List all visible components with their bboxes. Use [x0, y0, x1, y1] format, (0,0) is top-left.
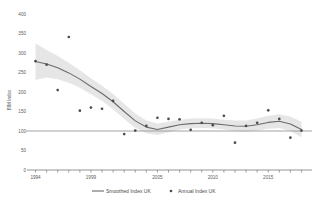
annual-index-point: [145, 125, 148, 128]
annual-index-point: [300, 129, 303, 132]
annual-index-point: [67, 36, 70, 39]
x-tick-label: 1994: [30, 175, 41, 180]
x-tick-label: 1999: [86, 175, 97, 180]
y-tick-label-zero: 0: [23, 168, 26, 173]
annual-index-point: [34, 60, 37, 63]
annual-index-point: [123, 133, 126, 136]
annual-index-point: [79, 109, 82, 112]
annual-index-point: [56, 89, 59, 92]
legend-label-smoothed: Smoothed Index UK: [106, 188, 151, 194]
annual-index-point: [112, 100, 115, 103]
annual-index-point: [167, 118, 170, 121]
annual-index-point: [200, 121, 203, 124]
y-tick-label: 250: [18, 70, 26, 75]
y-tick-label: 200: [18, 90, 26, 95]
y-axis-title: BIM Index: [7, 89, 12, 110]
annual-index-point: [223, 114, 226, 117]
annual-index-point: [156, 116, 159, 119]
chart-container: 40035030025020015010050 BIM Index 199419…: [0, 0, 314, 204]
annual-index-point: [211, 124, 214, 127]
annual-index-point: [245, 125, 248, 128]
legend-point-swatch: [170, 190, 173, 193]
annual-index-point: [267, 109, 270, 112]
y-tick-label: 400: [18, 12, 26, 17]
y-tick-label: 350: [18, 31, 26, 36]
annual-index-point: [101, 107, 104, 110]
bim-index-chart: 40035030025020015010050 BIM Index 199419…: [0, 0, 314, 204]
annual-index-point: [178, 118, 181, 121]
y-tick-label: 50: [21, 148, 27, 153]
chart-background: [0, 0, 314, 204]
annual-index-point: [234, 141, 237, 144]
annual-index-point: [45, 63, 48, 66]
annual-index-point: [90, 106, 93, 109]
y-axis-title-label: BIM Index: [7, 89, 12, 110]
y-axis-zero-label: 0: [23, 168, 26, 173]
annual-index-point: [189, 128, 192, 131]
annual-index-point: [278, 118, 281, 121]
legend-label-annual: Annual Index UK: [178, 188, 216, 194]
x-tick-label: 2005: [152, 175, 163, 180]
y-tick-label: 100: [18, 129, 26, 134]
annual-index-point: [134, 129, 137, 132]
x-tick-label: 2015: [263, 175, 274, 180]
y-tick-label: 150: [18, 109, 26, 114]
annual-index-point: [289, 136, 292, 139]
y-tick-label: 300: [18, 51, 26, 56]
x-tick-label: 2010: [208, 175, 219, 180]
annual-index-point: [256, 121, 259, 124]
